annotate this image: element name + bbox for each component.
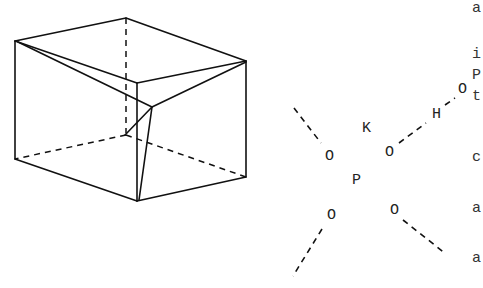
atom-o-lower-left: O bbox=[327, 207, 336, 224]
cut-text-line: t bbox=[472, 88, 481, 105]
cut-text-line: c bbox=[472, 149, 481, 166]
prism-hidden-edges bbox=[15, 18, 246, 177]
molecule-diagram: K O O P O O H O bbox=[293, 81, 467, 276]
atom-p: P bbox=[352, 172, 361, 189]
cut-text-line: a bbox=[472, 0, 481, 17]
atom-o-lower-right: O bbox=[390, 202, 399, 219]
cut-text-line: i bbox=[472, 46, 481, 63]
atom-k: K bbox=[362, 120, 371, 137]
cut-text-column: a i P t c a a bbox=[472, 0, 481, 267]
prism-diagram bbox=[15, 18, 246, 201]
figure: K O O P O O H O a i P t c a a bbox=[0, 0, 483, 288]
atom-h: H bbox=[432, 106, 441, 123]
atom-o-upper-left: O bbox=[325, 148, 334, 165]
atom-o-upper-right: O bbox=[385, 144, 394, 161]
cut-text-line: P bbox=[472, 67, 481, 84]
cut-text-line: a bbox=[472, 200, 481, 217]
atom-o-far: O bbox=[458, 81, 467, 98]
molecule-bonds bbox=[293, 98, 455, 276]
cut-text-line: a bbox=[472, 250, 481, 267]
